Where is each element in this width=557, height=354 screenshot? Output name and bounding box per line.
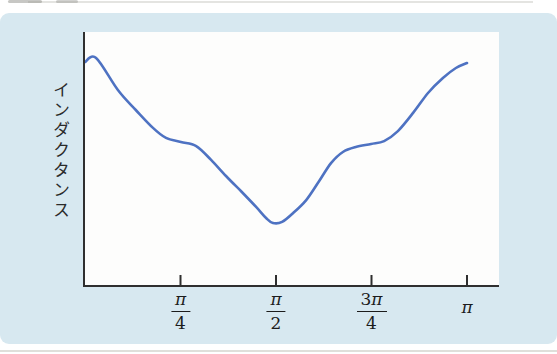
x-tick-label: π <box>457 290 476 319</box>
tick-fraction-denominator: 4 <box>175 312 186 333</box>
figure-card: インダクタンス π4π23π4π <box>0 13 557 344</box>
y-axis-label: インダクタンス <box>48 81 73 251</box>
scan-artifact-bottom-line <box>0 350 557 352</box>
tick-fraction-numerator: π <box>266 290 285 312</box>
tick-value: π <box>457 298 476 319</box>
scan-artifact-top-line <box>28 1 533 3</box>
tick-fraction-denominator: 2 <box>271 312 282 333</box>
figure-page: インダクタンス π4π23π4π <box>0 0 557 354</box>
scan-artifact-smudge <box>56 0 78 3</box>
tick-fraction-numerator: 3π <box>356 290 386 312</box>
inductance-curve <box>85 57 467 224</box>
tick-fraction-denominator: 4 <box>366 312 377 333</box>
plot-area <box>83 32 499 287</box>
x-tick-label: π4 <box>171 290 190 332</box>
x-tick-label: π2 <box>266 290 285 332</box>
x-tick-label: 3π4 <box>356 290 386 332</box>
x-axis-tick-labels: π4π23π4π <box>0 290 557 340</box>
inductance-curve-svg <box>85 32 499 285</box>
scan-artifact-smudge <box>8 0 42 3</box>
tick-fraction-numerator: π <box>171 290 190 312</box>
